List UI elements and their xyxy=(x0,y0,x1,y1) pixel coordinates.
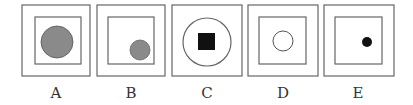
option-label: B xyxy=(125,84,136,102)
option-d[interactable]: D xyxy=(248,5,318,102)
inner-square xyxy=(335,17,382,64)
answer-options-figure: A B C D E xyxy=(0,0,413,105)
option-label: E xyxy=(353,84,364,102)
option-b[interactable]: B xyxy=(97,5,165,102)
option-a[interactable]: A xyxy=(22,5,90,102)
option-e[interactable]: E xyxy=(324,5,394,102)
option-c[interactable]: C xyxy=(172,5,242,102)
hollow-circle-icon xyxy=(273,31,293,51)
option-label: A xyxy=(50,84,62,102)
black-dot-icon xyxy=(362,37,372,47)
outer-square xyxy=(97,5,165,76)
small-gray-circle-icon xyxy=(130,40,150,60)
option-label: C xyxy=(201,84,212,102)
large-gray-circle-icon xyxy=(41,26,73,58)
option-label: D xyxy=(277,84,289,102)
black-square-icon xyxy=(198,33,215,50)
